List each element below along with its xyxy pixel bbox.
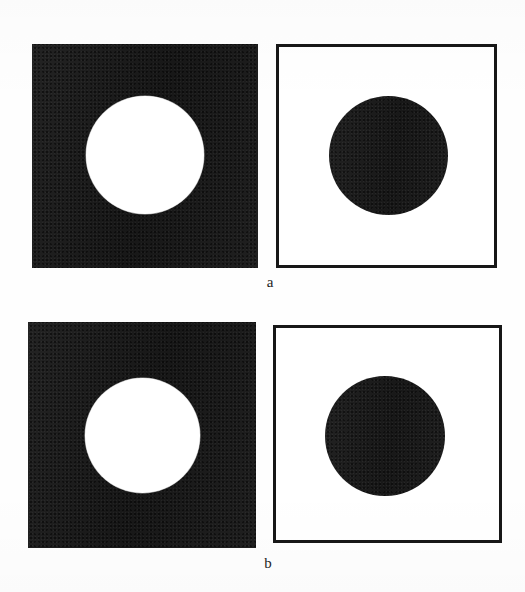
panel-b-right-black-disc	[325, 376, 445, 496]
panel-a-left-white-disc	[86, 96, 204, 214]
caption-b: b	[254, 556, 282, 571]
panel-a-right-black-disc	[329, 96, 448, 215]
figure-root: a b	[0, 0, 525, 592]
panel-b-left-white-disc	[85, 378, 200, 493]
caption-a: a	[256, 275, 284, 290]
panel-b-right-complementary-obstacle	[273, 325, 502, 543]
panel-a-left-aperture-screen	[32, 44, 258, 268]
panel-b-left-aperture-screen	[28, 322, 256, 548]
panel-a-right-complementary-obstacle	[276, 44, 497, 268]
